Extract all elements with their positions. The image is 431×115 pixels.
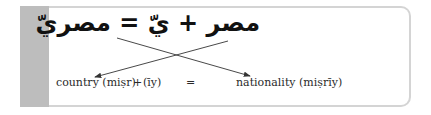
arrow-to-nationality [117,38,250,76]
equals-sign: = [186,76,195,89]
plus-sign: + [133,76,142,89]
arrow-to-country [95,41,228,77]
nationality-label: nationality (miṣrīy) [236,76,342,89]
country-label: country (miṣr) [56,76,136,89]
suffix-label: (īy) [143,76,161,89]
crossing-arrows [0,0,431,115]
